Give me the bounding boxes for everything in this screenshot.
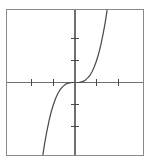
figure-root bbox=[0, 0, 150, 166]
plot-frame bbox=[6, 9, 144, 156]
plot-svg bbox=[7, 10, 143, 155]
